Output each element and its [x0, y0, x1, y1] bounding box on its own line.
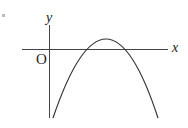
origin-label: O — [36, 52, 47, 67]
parabola-curve — [53, 39, 158, 118]
graph-figure: y x O — [0, 0, 188, 128]
cropped-mark — [2, 14, 5, 17]
graph-canvas — [0, 0, 188, 128]
y-axis-label: y — [46, 11, 52, 25]
x-axis-label: x — [172, 41, 178, 55]
